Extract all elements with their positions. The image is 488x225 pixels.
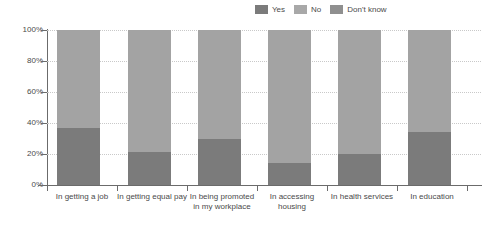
x-tick-mark-3 — [257, 185, 258, 191]
bar-group-in-getting-equal-pay[interactable] — [128, 30, 171, 185]
x-label-in-getting-equal-pay: In getting equal pay — [116, 192, 188, 202]
bar-segment-no[interactable] — [338, 30, 381, 154]
bar-segment-no[interactable] — [128, 30, 171, 152]
x-label-in-health-services: In health services — [326, 192, 398, 202]
stacked-bar-chart: Yes No Don't know 100% 80% 60% 40% 20% 0… — [0, 0, 488, 225]
x-axis-line — [38, 185, 482, 186]
x-label-in-being-promoted-in-my-workplace: In being promoted in my workplace — [186, 192, 258, 212]
x-tick-mark-6 — [467, 185, 468, 191]
bar-segment-yes[interactable] — [338, 154, 381, 185]
x-tick-mark-2 — [187, 185, 188, 191]
x-tick-mark-4 — [327, 185, 328, 191]
x-tick-mark-0 — [47, 185, 48, 191]
x-axis-category-labels: In getting a job In getting equal pay In… — [47, 192, 481, 225]
bar-segment-no[interactable] — [408, 30, 451, 132]
legend-swatch-no — [294, 5, 307, 14]
legend-item-yes[interactable]: Yes — [255, 5, 285, 14]
bar-segment-yes[interactable] — [128, 152, 171, 185]
legend-swatch-dont-know — [330, 5, 343, 14]
plot-area — [47, 30, 481, 185]
bar-segment-no[interactable] — [57, 30, 100, 128]
bar-segment-no[interactable] — [268, 30, 311, 163]
bar-segment-yes[interactable] — [198, 139, 241, 186]
bar-group-in-accessing-housing[interactable] — [268, 30, 311, 185]
x-label-in-education: In education — [396, 192, 468, 202]
bar-group-in-health-services[interactable] — [338, 30, 381, 185]
legend-swatch-yes — [255, 5, 268, 14]
legend-item-no[interactable]: No — [294, 5, 321, 14]
bar-group-in-being-promoted-in-my-workplace[interactable] — [198, 30, 241, 185]
legend-label-dont-know: Don't know — [347, 5, 386, 14]
y-tick-label-100: 100% — [23, 26, 43, 34]
legend-label-yes: Yes — [272, 5, 285, 14]
y-axis-tick-labels: 100% 80% 60% 40% 20% 0% — [0, 0, 43, 225]
bar-segment-yes[interactable] — [57, 128, 100, 185]
x-tick-mark-1 — [117, 185, 118, 191]
bar-segment-no[interactable] — [198, 30, 241, 139]
legend-label-no: No — [311, 5, 321, 14]
bar-segment-yes[interactable] — [268, 163, 311, 185]
chart-legend: Yes No Don't know — [255, 2, 387, 16]
bar-group-in-education[interactable] — [408, 30, 451, 185]
x-label-in-getting-a-job: In getting a job — [46, 192, 118, 202]
bar-segment-yes[interactable] — [408, 132, 451, 185]
legend-item-dont-know[interactable]: Don't know — [330, 5, 386, 14]
bar-group-in-getting-a-job[interactable] — [57, 30, 100, 185]
x-tick-mark-5 — [397, 185, 398, 191]
x-label-in-accessing-housing: In accessing housing — [256, 192, 328, 212]
